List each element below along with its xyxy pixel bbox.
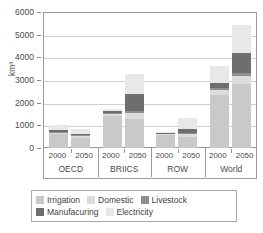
bar-segment-irrigation	[71, 138, 90, 148]
bar-segment-electricity	[232, 25, 251, 53]
legend-label: Livestock	[152, 195, 187, 205]
x-tick-mark	[178, 149, 179, 153]
legend-item-electricity: Electricity	[106, 207, 153, 217]
x-group-separator	[151, 148, 152, 177]
legend-item-manufacuring: Manufacuring	[36, 207, 99, 217]
x-group-label: BRIICS	[98, 163, 152, 176]
x-group-separator	[98, 148, 99, 177]
y-tick-mark	[37, 103, 41, 104]
x-year-label: 2000	[98, 149, 125, 163]
bar-segment-irrigation	[210, 95, 229, 148]
x-group-label: World	[205, 163, 259, 176]
legend-swatch-irrigation	[36, 196, 44, 204]
x-group-oecd: 20002050OECD	[44, 148, 98, 177]
bars-layer	[43, 12, 257, 148]
x-tick-mark	[231, 149, 232, 153]
x-tick-mark	[71, 149, 72, 153]
legend-row: IrrigationDomesticLivestock	[36, 194, 232, 206]
y-tick-mark	[37, 125, 41, 126]
bar-oecd-2050	[71, 129, 90, 148]
y-tick-label: 2000	[15, 98, 34, 107]
y-tick-label: 6000	[15, 8, 34, 17]
legend-label: Irrigation	[47, 195, 80, 205]
water-demand-stacked-bar-chart: 0100020003000400050006000 km³ 20002050OE…	[0, 0, 263, 233]
legend-label: Electricity	[117, 207, 153, 217]
legend-label: Domestic	[98, 195, 133, 205]
x-year-label: 2050	[231, 149, 258, 163]
x-year-label: 2000	[205, 149, 232, 163]
chart-legend: IrrigationDomesticLivestockManufacuringE…	[31, 190, 237, 222]
y-tick-label: 5000	[15, 30, 34, 39]
x-group-briics: 20002050BRIICS	[98, 148, 152, 177]
x-group-label: OECD	[44, 163, 98, 176]
bar-segment-manufacuring	[125, 94, 144, 111]
bar-segment-electricity	[178, 118, 197, 129]
y-tick-label: 4000	[15, 53, 34, 62]
legend-item-livestock: Livestock	[141, 195, 187, 205]
bar-segment-domestic	[232, 76, 251, 84]
bar-segment-electricity	[210, 66, 229, 83]
x-group-world: 20002050World	[205, 148, 259, 177]
legend-row: ManufacuringElectricity	[36, 206, 232, 218]
bar-segment-irrigation	[156, 135, 175, 148]
x-group-separator	[205, 148, 206, 177]
bar-briics-2050	[125, 74, 144, 148]
bar-world-2000	[210, 66, 229, 148]
legend-item-domestic: Domestic	[87, 195, 133, 205]
y-tick-mark	[37, 35, 41, 36]
y-tick-label: 1000	[15, 121, 34, 130]
x-year-label: 2000	[151, 149, 178, 163]
x-group-label: ROW	[151, 163, 205, 176]
y-tick-mark	[37, 57, 41, 58]
legend-item-irrigation: Irrigation	[36, 195, 80, 205]
bar-segment-electricity	[125, 74, 144, 94]
legend-swatch-electricity	[106, 208, 114, 216]
legend-swatch-manufacuring	[36, 208, 44, 216]
legend-label: Manufacuring	[47, 207, 99, 217]
x-axis: 20002050OECD20002050BRIICS20002050ROW200…	[43, 148, 257, 179]
bar-oecd-2000	[49, 125, 68, 148]
x-tick-mark	[124, 149, 125, 153]
y-axis-title: km³	[7, 49, 17, 89]
bar-segment-irrigation	[103, 116, 122, 148]
y-tick-label: 3000	[15, 76, 34, 85]
bar-segment-irrigation	[125, 119, 144, 148]
bar-segment-manufacuring	[232, 53, 251, 73]
y-tick-label: 0	[29, 144, 34, 153]
y-tick-mark	[37, 12, 41, 13]
x-year-label: 2050	[124, 149, 151, 163]
legend-swatch-livestock	[141, 196, 149, 204]
x-year-label: 2000	[44, 149, 71, 163]
x-year-label: 2050	[71, 149, 98, 163]
y-tick-mark	[37, 80, 41, 81]
bar-world-2050	[232, 25, 251, 148]
bar-briics-2000	[103, 109, 122, 148]
legend-swatch-domestic	[87, 196, 95, 204]
x-year-label: 2050	[178, 149, 205, 163]
bar-row-2000	[156, 132, 175, 148]
bar-row-2050	[178, 118, 197, 148]
bar-segment-irrigation	[232, 84, 251, 148]
y-tick-mark	[37, 148, 41, 149]
bar-segment-irrigation	[49, 134, 68, 148]
x-group-row: 20002050ROW	[151, 148, 205, 177]
bar-segment-irrigation	[178, 137, 197, 148]
